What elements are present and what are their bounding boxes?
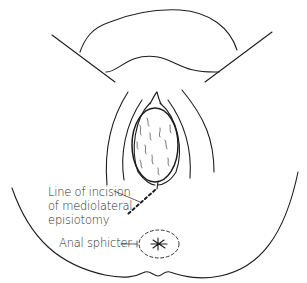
incision-label: Line of incision of mediolateral episiot… bbox=[48, 185, 132, 227]
labia-minora bbox=[123, 100, 191, 185]
anal-sphincter bbox=[139, 230, 179, 258]
fourchette bbox=[157, 182, 158, 189]
mons-pubis bbox=[52, 10, 272, 82]
perineum-diagram bbox=[0, 0, 307, 283]
incision-label-line-3: episiotomy bbox=[48, 213, 132, 227]
clitoral-hood bbox=[150, 92, 161, 104]
fetal-head bbox=[132, 108, 178, 182]
anal-sphincter-label: Anal sphicter bbox=[59, 236, 132, 250]
incision-label-line-1: Line of incision bbox=[48, 185, 132, 199]
incision-label-line-2: of mediolateral bbox=[48, 199, 132, 213]
